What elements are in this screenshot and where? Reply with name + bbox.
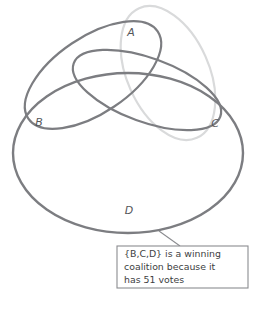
venn-diagram: A B C D {B,C,D} is a winning coalition b… — [0, 0, 257, 310]
set-label-B: B — [35, 116, 43, 129]
set-label-C: C — [211, 117, 219, 130]
set-label-D: D — [125, 204, 133, 217]
set-label-A: A — [126, 26, 135, 39]
callout-leader-line — [159, 231, 180, 246]
callout-line-2: coalition because it — [124, 261, 216, 272]
figure-canvas: A B C D {B,C,D} is a winning coalition b… — [0, 0, 257, 310]
callout-line-1: {B,C,D} is a winning — [124, 248, 221, 259]
callout-line-3: has 51 votes — [124, 274, 184, 285]
